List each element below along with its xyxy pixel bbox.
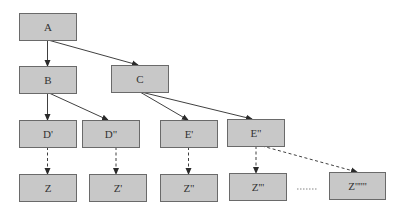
edge-c-to-e2 <box>141 92 252 119</box>
edge-c-to-e1 <box>140 92 188 120</box>
node-label: Z'''''' <box>348 180 367 192</box>
node-label: Z' <box>114 182 123 194</box>
node-label: C <box>136 73 143 85</box>
node-z1: Z' <box>90 175 147 202</box>
node-e1: E' <box>161 121 218 148</box>
node-label: Z''' <box>252 181 265 193</box>
edge-b-to-d2 <box>49 93 108 120</box>
edge-a-to-c <box>48 40 138 65</box>
node-z0: Z <box>20 175 77 202</box>
node-b: B <box>20 67 77 94</box>
node-z3: Z''' <box>230 174 287 201</box>
tree-diagram: ABCD'D"E'E"ZZ'Z"Z'''Z'''''' <box>0 0 401 215</box>
node-label: E' <box>185 128 194 140</box>
node-label: B <box>44 74 51 86</box>
node-label: D' <box>43 128 53 140</box>
node-label: D" <box>105 128 117 140</box>
node-label: A <box>44 21 52 33</box>
node-d1: D' <box>20 121 77 148</box>
node-zn: Z'''''' <box>330 173 386 200</box>
edges <box>48 40 358 174</box>
node-z2: Z" <box>161 175 218 202</box>
node-d2: D" <box>83 121 140 148</box>
node-label: Z" <box>183 182 194 194</box>
edge-e2-to-zn <box>262 146 357 172</box>
nodes: ABCD'D"E'E"ZZ'Z"Z'''Z'''''' <box>20 14 386 202</box>
node-a: A <box>20 14 77 41</box>
node-e2: E" <box>228 120 285 147</box>
node-label: E" <box>250 127 261 139</box>
node-label: Z <box>45 182 52 194</box>
node-c: C <box>112 66 169 93</box>
